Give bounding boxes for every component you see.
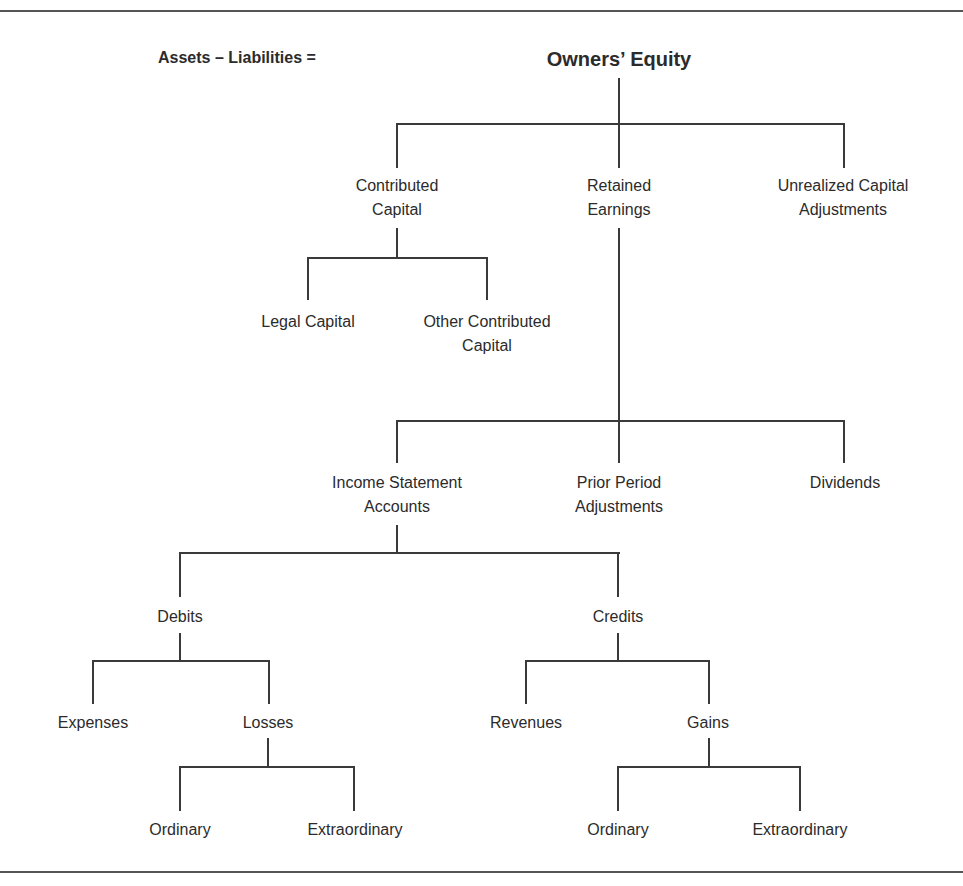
connector <box>92 660 270 662</box>
connector <box>525 660 710 662</box>
node-label-line: Earnings <box>587 198 651 222</box>
node-gains-ordinary: Ordinary <box>587 818 648 842</box>
connector <box>307 257 309 300</box>
connector <box>708 738 710 768</box>
node-label-line: Contributed <box>356 174 439 198</box>
node-debits: Debits <box>157 605 202 629</box>
connector <box>353 766 355 811</box>
connector <box>179 552 181 597</box>
node-gains-extraordinary: Extraordinary <box>752 818 847 842</box>
node-dividends: Dividends <box>810 471 880 495</box>
connector <box>267 738 269 768</box>
node-label-line: Prior Period <box>575 471 663 495</box>
node-retained-earnings: Retained Earnings <box>587 174 651 222</box>
node-label-line: Capital <box>423 334 550 358</box>
node-label-line: Retained <box>587 174 651 198</box>
connector <box>179 766 355 768</box>
connector <box>396 123 398 168</box>
connector <box>617 552 619 597</box>
node-credits: Credits <box>593 605 644 629</box>
connector <box>92 660 94 704</box>
connector <box>843 420 845 463</box>
node-expenses: Expenses <box>58 711 128 735</box>
node-unrealized-capital-adjustments: Unrealized Capital Adjustments <box>778 174 909 222</box>
node-other-contributed-capital: Other Contributed Capital <box>423 310 550 358</box>
node-revenues: Revenues <box>490 711 562 735</box>
node-label-line: Adjustments <box>575 495 663 519</box>
connector <box>396 420 398 463</box>
connector <box>617 633 619 662</box>
node-owners-equity: Owners’ Equity <box>547 46 691 72</box>
connector <box>396 228 398 259</box>
top-rule <box>0 10 963 12</box>
connector <box>179 766 181 811</box>
connector <box>179 552 620 554</box>
connector <box>179 633 181 662</box>
connector <box>396 123 845 125</box>
connector <box>618 228 620 463</box>
connector <box>799 766 801 811</box>
connector <box>396 420 845 422</box>
node-income-statement-accounts: Income Statement Accounts <box>332 471 462 519</box>
connector <box>396 525 398 554</box>
connector <box>617 766 801 768</box>
connector <box>617 766 619 811</box>
connector <box>307 257 488 259</box>
bottom-rule <box>0 871 963 873</box>
connector <box>843 123 845 168</box>
node-losses: Losses <box>243 711 294 735</box>
node-contributed-capital: Contributed Capital <box>356 174 439 222</box>
node-label-line: Capital <box>356 198 439 222</box>
connector <box>708 660 710 704</box>
node-losses-extraordinary: Extraordinary <box>307 818 402 842</box>
node-label-line: Unrealized Capital <box>778 174 909 198</box>
connector <box>525 660 527 704</box>
node-gains: Gains <box>687 711 729 735</box>
node-label-line: Accounts <box>332 495 462 519</box>
equation-label: Assets – Liabilities = <box>158 49 316 67</box>
node-label-line: Other Contributed <box>423 310 550 334</box>
node-losses-ordinary: Ordinary <box>149 818 210 842</box>
connector <box>486 257 488 300</box>
connector <box>268 660 270 704</box>
node-legal-capital: Legal Capital <box>261 310 354 334</box>
node-label-line: Adjustments <box>778 198 909 222</box>
node-label-line: Income Statement <box>332 471 462 495</box>
node-prior-period-adjustments: Prior Period Adjustments <box>575 471 663 519</box>
